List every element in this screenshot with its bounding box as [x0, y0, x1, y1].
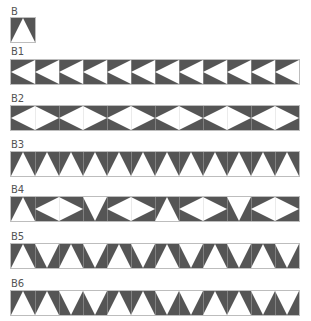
triangle-up-icon — [275, 152, 299, 176]
triangle-right-icon — [179, 106, 203, 130]
triangle-left-icon — [179, 60, 203, 84]
triangle-up-icon — [155, 244, 179, 268]
triangle-up-icon — [203, 291, 227, 315]
triangle-left-icon — [227, 60, 251, 84]
block-strip-b5 — [11, 244, 299, 268]
triangle-left-icon — [59, 60, 83, 84]
triangle-down-icon — [227, 197, 251, 221]
triangle-up-icon — [179, 152, 203, 176]
triangle-up-icon — [35, 291, 59, 315]
triangle-up-icon — [83, 152, 107, 176]
block-label-b5: B5 — [11, 231, 24, 242]
triangle-down-icon — [83, 244, 107, 268]
triangle-up-icon — [11, 291, 35, 315]
triangle-up-icon — [11, 197, 35, 221]
block-strip-b6 — [11, 291, 299, 315]
triangle-left-icon — [155, 60, 179, 84]
triangle-left-icon — [59, 106, 83, 130]
triangle-down-icon — [179, 291, 203, 315]
block-strip-b2 — [11, 106, 299, 130]
triangle-up-icon — [107, 244, 131, 268]
triangle-left-icon — [11, 60, 35, 84]
triangle-up-icon — [203, 152, 227, 176]
triangle-down-icon — [275, 291, 299, 315]
triangle-right-icon — [131, 106, 155, 130]
block-strip-b4 — [11, 197, 299, 221]
triangle-up-icon — [227, 152, 251, 176]
triangle-right-icon — [83, 106, 107, 130]
triangle-down-icon — [35, 244, 59, 268]
block-strip-b — [11, 18, 35, 42]
triangle-down-icon — [83, 291, 107, 315]
triangle-down-icon — [227, 244, 251, 268]
triangle-up-icon — [227, 291, 251, 315]
block-strip-b3 — [11, 152, 299, 176]
triangle-down-icon — [83, 197, 107, 221]
triangle-up-icon — [59, 152, 83, 176]
triangle-left-icon — [203, 60, 227, 84]
triangle-left-icon — [35, 60, 59, 84]
triangle-up-icon — [35, 152, 59, 176]
block-label-b1: B1 — [11, 46, 24, 57]
triangle-right-icon — [275, 197, 299, 221]
triangle-left-icon — [107, 197, 131, 221]
triangle-down-icon — [251, 291, 275, 315]
triangle-up-icon — [251, 244, 275, 268]
triangle-left-icon — [251, 60, 275, 84]
triangle-right-icon — [131, 197, 155, 221]
triangle-down-icon — [275, 244, 299, 268]
triangle-down-icon — [59, 291, 83, 315]
triangle-up-icon — [107, 152, 131, 176]
triangle-right-icon — [227, 106, 251, 130]
triangle-right-icon — [59, 197, 83, 221]
triangle-left-icon — [275, 60, 299, 84]
block-label-b2: B2 — [11, 93, 24, 104]
triangle-up-icon — [11, 244, 35, 268]
triangle-up-icon — [251, 152, 275, 176]
triangle-left-icon — [251, 106, 275, 130]
triangle-left-icon — [11, 106, 35, 130]
block-label-b: B — [11, 6, 18, 17]
triangle-left-icon — [251, 197, 275, 221]
triangle-up-icon — [155, 197, 179, 221]
triangle-down-icon — [155, 291, 179, 315]
triangle-up-icon — [59, 244, 83, 268]
triangle-up-icon — [11, 152, 35, 176]
triangle-up-icon — [131, 152, 155, 176]
triangle-right-icon — [275, 106, 299, 130]
block-label-b3: B3 — [11, 139, 24, 150]
triangle-right-icon — [203, 197, 227, 221]
triangle-left-icon — [203, 106, 227, 130]
triangle-left-icon — [179, 197, 203, 221]
triangle-left-icon — [131, 60, 155, 84]
triangle-left-icon — [83, 60, 107, 84]
triangle-left-icon — [107, 60, 131, 84]
triangle-left-icon — [155, 106, 179, 130]
triangle-up-icon — [11, 18, 35, 42]
triangle-up-icon — [131, 291, 155, 315]
triangle-up-icon — [155, 152, 179, 176]
triangle-right-icon — [35, 106, 59, 130]
triangle-up-icon — [203, 244, 227, 268]
triangle-left-icon — [35, 197, 59, 221]
block-label-b4: B4 — [11, 184, 24, 195]
triangle-down-icon — [179, 244, 203, 268]
triangle-left-icon — [107, 106, 131, 130]
block-label-b6: B6 — [11, 278, 24, 289]
triangle-down-icon — [131, 244, 155, 268]
triangle-up-icon — [107, 291, 131, 315]
block-strip-b1 — [11, 60, 299, 84]
